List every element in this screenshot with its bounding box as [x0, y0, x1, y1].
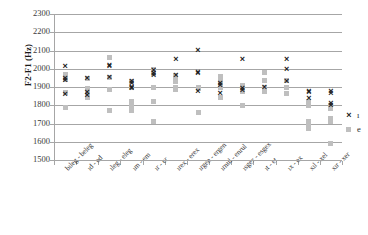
data-point [283, 56, 290, 63]
y-axis-tick-label: 1900 [10, 82, 50, 91]
data-point [129, 108, 134, 113]
scatter-chart: F2-F1 (Hz) 23002200210020001900180017001… [0, 0, 368, 235]
data-point [62, 77, 69, 84]
data-point [262, 70, 267, 75]
data-point [239, 87, 246, 94]
data-point [195, 88, 202, 95]
y-axis-tick-label: 1700 [10, 119, 50, 128]
square-marker-icon [344, 124, 354, 134]
y-axis-tick-label: 2100 [10, 46, 50, 55]
data-point [305, 95, 312, 102]
data-point [240, 103, 245, 108]
y-axis-tick-label: 1500 [10, 155, 50, 164]
gridline [54, 105, 342, 106]
gridline [54, 142, 342, 143]
data-point [306, 126, 311, 131]
data-point [106, 63, 113, 70]
data-point [196, 110, 201, 115]
plot-area [54, 14, 342, 160]
data-point [261, 84, 268, 91]
y-axis-tick-label: 2300 [10, 9, 50, 18]
y-axis-tick-label: 1600 [10, 137, 50, 146]
x-marker-icon: × [344, 110, 354, 120]
data-point [172, 56, 179, 63]
data-point [151, 119, 156, 124]
data-point [150, 72, 157, 79]
data-point [195, 47, 202, 54]
legend-label-i: ı [357, 110, 359, 120]
legend: × ı e [344, 108, 361, 136]
data-point [327, 102, 334, 109]
data-point [151, 99, 156, 104]
data-point [306, 103, 311, 108]
x-axis-tick [54, 161, 55, 165]
data-point [84, 92, 91, 99]
gridline [54, 124, 342, 125]
legend-item-i: × ı [344, 108, 361, 122]
data-point [283, 66, 290, 73]
gridline [54, 14, 342, 15]
data-point [217, 90, 224, 97]
data-point [151, 85, 156, 90]
y-axis-tick-label: 2200 [10, 27, 50, 36]
y-axis-tick-label: 2000 [10, 64, 50, 73]
gridline [54, 32, 342, 33]
gridline [54, 160, 342, 161]
data-point [283, 78, 290, 85]
data-point [63, 105, 68, 110]
data-point [328, 141, 333, 146]
legend-label-e: e [357, 124, 361, 134]
data-point [327, 90, 334, 97]
data-point [173, 87, 178, 92]
data-point [284, 91, 289, 96]
data-point [107, 108, 112, 113]
data-point [195, 70, 202, 77]
data-point [84, 75, 91, 82]
data-point [107, 87, 112, 92]
y-axis-tick-label: 1800 [10, 100, 50, 109]
data-point [328, 119, 333, 124]
data-point [106, 74, 113, 81]
data-point [62, 91, 69, 98]
legend-item-e: e [344, 122, 361, 136]
data-point [239, 56, 246, 63]
data-point [172, 72, 179, 79]
data-point [128, 85, 135, 92]
data-point [62, 63, 69, 70]
